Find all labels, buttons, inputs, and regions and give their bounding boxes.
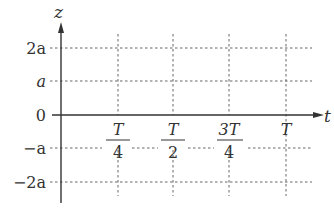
x-tick-3T4-den: 4 bbox=[224, 143, 234, 162]
z-t-diagram: z t 2a a 0 −a −2a T 4 T 2 3T 4 T bbox=[0, 0, 334, 209]
x-tick-T4: T 4 bbox=[106, 120, 130, 162]
x-tick-T2-den: 2 bbox=[168, 143, 178, 162]
y-tick-2a: 2a bbox=[26, 39, 46, 58]
x-tick-3T4: 3T 4 bbox=[217, 120, 243, 162]
y-tick-a: a bbox=[36, 72, 46, 91]
x-tick-T-label: T bbox=[281, 120, 293, 139]
z-axis-label: z bbox=[53, 2, 64, 22]
x-tick-3T4-num: 3T bbox=[219, 120, 241, 139]
x-tick-T4-den: 4 bbox=[113, 143, 123, 162]
x-tick-T: T bbox=[281, 120, 293, 139]
y-tick-neg-2a: −2a bbox=[13, 173, 47, 192]
y-tick-0: 0 bbox=[36, 106, 46, 125]
z-axis-arrow-icon bbox=[58, 22, 64, 33]
x-tick-T4-num: T bbox=[113, 120, 125, 139]
t-axis-label: t bbox=[324, 106, 331, 126]
t-axis-arrow-icon bbox=[313, 112, 324, 118]
x-tick-T2-num: T bbox=[168, 120, 180, 139]
y-tick-neg-a: −a bbox=[23, 139, 46, 158]
x-tick-T2: T 2 bbox=[161, 120, 185, 162]
